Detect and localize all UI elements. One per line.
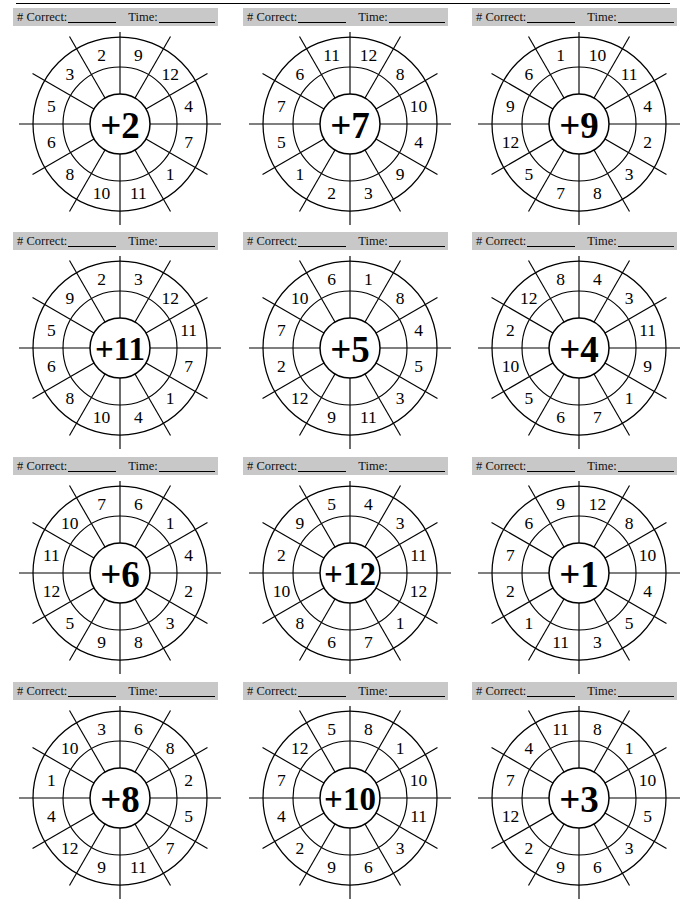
wheel-outer-number: 12 xyxy=(520,288,538,308)
time-label: Time: xyxy=(128,10,157,24)
wheel-outer-number: 8 xyxy=(593,183,602,203)
wheel-outer-number: 4 xyxy=(277,806,286,826)
wheel-outer-number: 5 xyxy=(327,719,336,739)
wheel-outer-number: 8 xyxy=(166,738,175,758)
time-answer-blank[interactable] xyxy=(159,696,215,697)
correct-label: # Correct: xyxy=(247,234,297,248)
wheel-outer-number: 7 xyxy=(184,132,193,152)
wheel-outer-number: 10 xyxy=(639,545,657,565)
correct-answer-blank[interactable] xyxy=(298,246,346,247)
time-label: Time: xyxy=(358,10,387,24)
wheel-plus-6: +6614238951211107 xyxy=(0,481,229,681)
correct-answer-blank[interactable] xyxy=(298,22,346,23)
time-answer-blank[interactable] xyxy=(159,471,215,472)
score-bar-content: # Correct:Time: xyxy=(476,8,676,26)
wheel-plus-3: +3811053692127411 xyxy=(459,706,686,903)
correct-answer-blank[interactable] xyxy=(298,696,346,697)
wheel-outer-number: 9 xyxy=(65,288,74,308)
wheel-outer-number: 5 xyxy=(524,164,533,184)
score-bar-content: # Correct:Time: xyxy=(247,682,447,700)
wheel-outer-number: 4 xyxy=(184,96,193,116)
wheel-outer-number: 5 xyxy=(277,132,286,152)
wheel-outer-number: 1 xyxy=(166,513,175,533)
wheel-outer-number: 1 xyxy=(166,164,175,184)
correct-answer-blank[interactable] xyxy=(68,696,116,697)
time-answer-blank[interactable] xyxy=(618,22,674,23)
wheel-outer-number: 10 xyxy=(273,581,291,601)
wheel-outer-number: 7 xyxy=(166,838,175,858)
correct-answer-blank[interactable] xyxy=(68,246,116,247)
score-bar: # Correct:Time: xyxy=(243,232,448,250)
time-label: Time: xyxy=(587,459,616,473)
wheel-plus-12: +12431112176810295 xyxy=(230,481,459,681)
wheel-outer-number: 7 xyxy=(277,770,286,790)
wheel-outer-number: 6 xyxy=(556,407,565,427)
score-bar: # Correct:Time: xyxy=(472,682,677,700)
wheel-outer-number: 3 xyxy=(625,838,634,858)
wheel-outer-number: 7 xyxy=(506,545,515,565)
wheel-outer-number: 12 xyxy=(502,132,520,152)
time-answer-blank[interactable] xyxy=(618,696,674,697)
time-answer-blank[interactable] xyxy=(159,246,215,247)
wheel-outer-number: 3 xyxy=(97,719,106,739)
wheel-outer-number: 11 xyxy=(130,183,147,203)
wheel-outer-number: 11 xyxy=(323,45,340,65)
wheel-outer-number: 6 xyxy=(134,719,143,739)
wheel-outer-number: 2 xyxy=(327,183,336,203)
wheel-outer-number: 5 xyxy=(47,320,56,340)
score-bar: # Correct:Time: xyxy=(13,8,218,26)
wheel-outer-number: 4 xyxy=(593,269,602,289)
wheel-outer-number: 6 xyxy=(134,494,143,514)
time-answer-blank[interactable] xyxy=(389,696,445,697)
correct-answer-blank[interactable] xyxy=(527,471,575,472)
wheel-outer-number: 1 xyxy=(295,164,304,184)
time-answer-blank[interactable] xyxy=(389,22,445,23)
wheel-outer-number: 11 xyxy=(360,407,377,427)
time-answer-blank[interactable] xyxy=(159,22,215,23)
correct-answer-blank[interactable] xyxy=(68,471,116,472)
wheel-outer-number: 9 xyxy=(295,513,304,533)
wheel-outer-number: 3 xyxy=(625,164,634,184)
wheel-outer-number: 4 xyxy=(643,581,652,601)
score-bar: # Correct:Time: xyxy=(472,8,677,26)
correct-answer-blank[interactable] xyxy=(298,471,346,472)
wheel-outer-number: 3 xyxy=(134,269,143,289)
wheel-plus-4: +4431191765102128 xyxy=(459,256,686,456)
correct-label: # Correct: xyxy=(17,10,67,24)
wheel-outer-number: 10 xyxy=(61,738,79,758)
correct-answer-blank[interactable] xyxy=(527,696,575,697)
time-label: Time: xyxy=(587,234,616,248)
wheel-outer-number: 3 xyxy=(593,632,602,652)
time-label: Time: xyxy=(128,684,157,698)
wheel-outer-number: 8 xyxy=(295,613,304,633)
time-answer-blank[interactable] xyxy=(618,471,674,472)
wheel-plus-8: +8682571191241103 xyxy=(0,706,229,903)
time-answer-blank[interactable] xyxy=(389,471,445,472)
correct-label: # Correct: xyxy=(247,459,297,473)
wheel-center-operand: +9 xyxy=(559,105,599,146)
wheel-outer-number: 6 xyxy=(593,857,602,877)
wheel-outer-number: 9 xyxy=(643,356,652,376)
wheel-outer-number: 5 xyxy=(414,356,423,376)
correct-answer-blank[interactable] xyxy=(68,22,116,23)
time-label: Time: xyxy=(587,684,616,698)
wheel-outer-number: 10 xyxy=(639,770,657,790)
wheel-outer-number: 3 xyxy=(65,64,74,84)
wheel-center-operand: +12 xyxy=(324,556,376,592)
wheel-outer-number: 9 xyxy=(556,857,565,877)
time-answer-blank[interactable] xyxy=(618,246,674,247)
correct-answer-blank[interactable] xyxy=(527,246,575,247)
wheel-outer-number: 10 xyxy=(502,356,520,376)
wheel-outer-number: 6 xyxy=(295,64,304,84)
wheel-outer-number: 6 xyxy=(364,857,373,877)
wheel-outer-number: 2 xyxy=(295,838,304,858)
correct-answer-blank[interactable] xyxy=(527,22,575,23)
wheel-plus-7: +7128104932157611 xyxy=(230,32,459,232)
wheel-outer-number: 7 xyxy=(97,494,106,514)
correct-label: # Correct: xyxy=(476,10,526,24)
wheel-outer-number: 1 xyxy=(47,770,56,790)
correct-label: # Correct: xyxy=(476,234,526,248)
time-answer-blank[interactable] xyxy=(389,246,445,247)
wheel-outer-number: 7 xyxy=(184,356,193,376)
